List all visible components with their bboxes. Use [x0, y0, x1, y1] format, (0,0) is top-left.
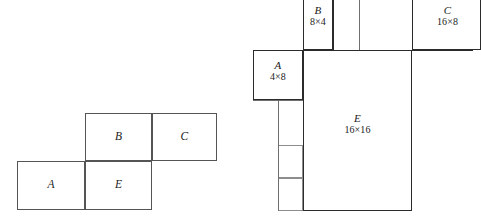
- right-filler-rect-lower: [278, 178, 303, 211]
- right-rect-C: [412, 0, 481, 50]
- right-guide-vertical-left-column: [278, 100, 279, 211]
- left-rect-E: [85, 161, 152, 210]
- right-guide-vertical-1: [333, 0, 334, 50]
- right-guide-horizontal-top: [253, 50, 473, 51]
- right-rect-E: [303, 50, 412, 211]
- left-rect-A: [17, 161, 85, 210]
- left-rect-B: [85, 113, 152, 161]
- right-guide-vertical-2: [359, 0, 360, 50]
- right-rect-B: [303, 0, 333, 50]
- right-filler-rect-upper: [278, 145, 303, 178]
- right-rect-A: [253, 50, 303, 100]
- left-rect-C: [152, 113, 217, 161]
